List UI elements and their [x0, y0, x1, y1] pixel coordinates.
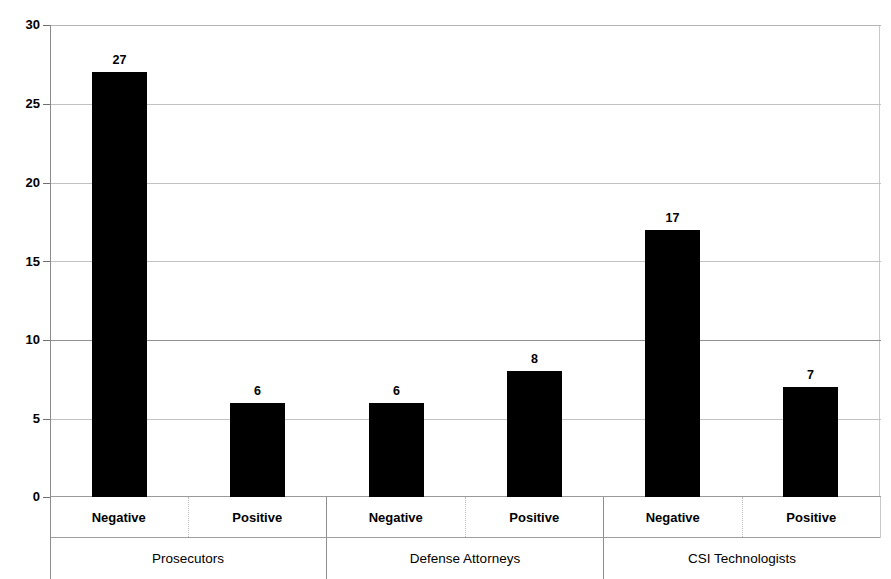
y-axis-label-0: 0 — [0, 490, 40, 503]
category-label-prosecutors-negative: Negative — [50, 497, 189, 537]
y-axis-tick-20 — [43, 183, 50, 184]
bar-value-label-csi-technologists-positive: 7 — [783, 369, 838, 382]
y-axis-tick-5 — [43, 419, 50, 420]
y-axis-extension-line — [50, 497, 51, 579]
bar-value-label-csi-technologists-negative: 17 — [645, 212, 700, 225]
group-label-prosecutors: Prosecutors — [50, 538, 327, 579]
bar-value-label-defense-attorneys-negative: 6 — [369, 385, 424, 398]
category-label-defense-attorneys-positive: Positive — [466, 497, 605, 537]
bar-csi-technologists-negative — [645, 230, 700, 497]
y-axis-tick-15 — [43, 261, 50, 262]
plot-right-border-extension — [880, 497, 881, 538]
category-label-prosecutors-positive: Positive — [189, 497, 328, 537]
bar-defense-attorneys-negative — [369, 403, 424, 497]
bar-csi-technologists-positive — [783, 387, 838, 497]
y-axis-label-30: 30 — [0, 18, 40, 31]
group-axis-row: Prosecutors Defense Attorneys CSI Techno… — [50, 538, 880, 579]
group-label-csi-technologists: CSI Technologists — [604, 538, 880, 579]
category-label-csi-technologists-positive: Positive — [743, 497, 881, 537]
y-axis-label-5: 5 — [0, 412, 40, 425]
bar-value-label-prosecutors-negative: 27 — [92, 54, 147, 67]
y-axis-label-20: 20 — [0, 176, 40, 189]
bar-prosecutors-negative — [92, 72, 147, 497]
bar-value-label-prosecutors-positive: 6 — [230, 385, 285, 398]
category-axis-row: Negative Positive Negative Positive Nega… — [50, 497, 880, 538]
category-label-defense-attorneys-negative: Negative — [327, 497, 466, 537]
y-axis-tick-25 — [43, 104, 50, 105]
y-axis-label-15: 15 — [0, 255, 40, 268]
group-label-defense-attorneys: Defense Attorneys — [327, 538, 604, 579]
bar-defense-attorneys-positive — [507, 371, 562, 497]
bar-value-label-defense-attorneys-positive: 8 — [507, 353, 562, 366]
category-label-csi-technologists-negative: Negative — [604, 497, 743, 537]
y-axis-label-10: 10 — [0, 333, 40, 346]
bar-prosecutors-positive — [230, 403, 285, 497]
y-axis-label-25: 25 — [0, 97, 40, 110]
y-axis-tick-0 — [43, 497, 50, 498]
bars-layer: 27 6 6 8 17 7 — [50, 25, 880, 497]
y-axis-tick-10 — [43, 340, 50, 341]
y-axis-tick-30 — [43, 25, 50, 26]
bar-chart: 30 25 20 15 10 5 0 27 6 6 8 17 7 — [0, 0, 891, 579]
